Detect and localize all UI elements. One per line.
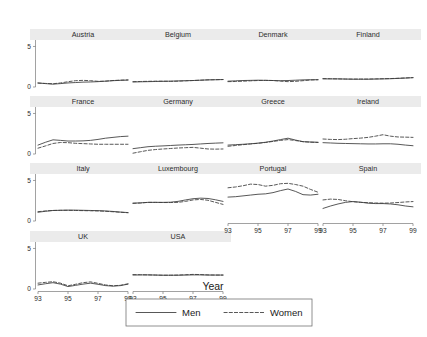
panel-title-label: France (72, 97, 94, 106)
figure-container: Austria05BelgiumDenmarkFinlandFrance05Ge… (0, 0, 427, 337)
panel-title-label: UK (78, 232, 88, 241)
panel-ireland: Ireland (315, 96, 421, 146)
series-line-men (133, 143, 223, 149)
series-line-women (228, 140, 318, 147)
y-axis-tick-label: 5 (27, 110, 31, 117)
panel-title-label: Spain (359, 164, 377, 173)
x-axis-tick-label: 95 (254, 227, 262, 234)
x-axis-tick-label: 95 (64, 295, 72, 302)
panel-title-label: Greece (261, 97, 285, 106)
series-line-men (323, 143, 413, 146)
panel-france: France05 (27, 96, 136, 157)
panel-luxembourg: Luxembourg (125, 163, 231, 204)
series-line-women (38, 142, 128, 148)
panel-title-label: Finland (356, 30, 380, 39)
y-axis-tick-label: 5 (27, 177, 31, 184)
panel-usa: USA (125, 231, 231, 275)
series-line-men (38, 136, 128, 145)
x-axis-tick-label: 99 (409, 227, 417, 234)
x-axis-tick-label: 97 (379, 227, 387, 234)
series-line-women (228, 183, 318, 192)
panel-title-label: Germany (163, 97, 193, 106)
y-axis-tick-label: 5 (27, 43, 31, 50)
small-multiples-line-chart: Austria05BelgiumDenmarkFinlandFrance05Ge… (0, 0, 427, 337)
series-line-men (228, 189, 318, 197)
panel-greece: Greece (220, 96, 326, 146)
panel-germany: Germany (125, 96, 231, 153)
panel-title-label: USA (171, 232, 186, 241)
x-axis-col-3: 93959799 (319, 224, 417, 235)
panel-title-label: Belgium (165, 30, 191, 39)
x-axis-tick-label: 97 (94, 295, 102, 302)
x-axis-col-0: 93959799 (34, 292, 132, 303)
panel-uk: UK05 (27, 231, 136, 292)
chart-legend: Men Women (126, 299, 312, 326)
panel-title-label: Denmark (258, 30, 288, 39)
x-axis-col-2: 93959799 (224, 224, 322, 235)
series-line-men (323, 202, 413, 209)
y-axis-tick-label: 0 (27, 217, 31, 224)
y-axis-tick-label: 0 (27, 150, 31, 157)
panel-italy: Italy05 (27, 163, 136, 224)
series-line-women (323, 199, 413, 203)
x-axis-title: Year (202, 280, 224, 292)
x-axis-tick-label: 93 (34, 295, 42, 302)
series-line-men (228, 138, 318, 145)
panel-title-label: Luxembourg (158, 164, 198, 173)
legend-label-women: Women (270, 307, 303, 318)
panel-title-label: Italy (76, 164, 90, 173)
y-axis-tick-label: 5 (27, 245, 31, 252)
panel-portugal: Portugal (220, 163, 326, 197)
panel-spain: Spain (315, 163, 421, 208)
panel-finland: Finland (315, 29, 421, 79)
y-axis-tick-label: 0 (27, 285, 31, 292)
x-axis-tick-label: 95 (349, 227, 357, 234)
series-line-women (323, 135, 413, 140)
panel-belgium: Belgium (125, 29, 231, 82)
series-line-women (133, 147, 223, 153)
panel-denmark: Denmark (220, 29, 326, 82)
panels-layer: Austria05BelgiumDenmarkFinlandFrance05Ge… (27, 29, 421, 292)
x-axis-tick-label: 97 (284, 227, 292, 234)
x-axis-tick-label: 93 (224, 227, 232, 234)
legend-label-men: Men (182, 307, 200, 318)
series-line-women (133, 199, 223, 204)
y-axis-tick-label: 0 (27, 83, 31, 90)
panel-austria: Austria05 (27, 29, 136, 90)
panel-title-label: Ireland (357, 97, 379, 106)
panel-title-label: Portugal (260, 164, 287, 173)
x-axis-tick-label: 93 (319, 227, 327, 234)
panel-title-label: Austria (72, 30, 94, 39)
